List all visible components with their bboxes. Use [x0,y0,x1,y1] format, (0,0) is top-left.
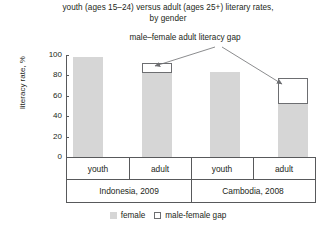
legend-label-female: female [121,211,146,220]
y-tick-label-0: 0 [34,153,62,161]
bar-segment-gap [142,63,172,73]
bar-segment-female [73,57,103,157]
x-group-label-cambodia: Cambodia, 2008 [191,180,315,202]
bar-segment-gap [278,78,308,104]
chart-legend: female male-female gap [0,211,336,220]
y-tick-label-100: 100 [34,51,62,59]
legend-item-gap[interactable]: male-female gap [154,211,226,220]
x-cell-divider [191,157,192,180]
x-label-cambodia-youth: youth [191,157,253,180]
x-cell-divider [253,157,254,180]
x-axis-group-table: youth adult youth adult Indonesia, 2009 … [66,157,316,203]
chart-title-line-1: youth (ages 15–24) versus adult (ages 25… [18,3,318,14]
bar-cambodia-youth[interactable] [210,72,240,157]
bar-segment-female [278,104,308,157]
bar-segment-female [210,72,240,157]
x-label-indonesia-adult: adult [129,157,191,180]
bar-segment-female [142,73,172,157]
x-axis-category-row: youth adult youth adult [67,157,315,180]
legend-swatch-gap-icon [154,212,161,219]
chart-title-line-2: by gender [18,14,318,25]
y-axis-tick-labels: 100 80 60 40 20 0 [34,48,62,166]
chart-title: youth (ages 15–24) versus adult (ages 25… [18,3,318,24]
bar-indonesia-adult[interactable] [142,63,172,157]
bar-cambodia-adult[interactable] [278,78,308,157]
plot-area [66,55,316,157]
legend-swatch-female-icon [110,212,117,219]
y-tick-label-60: 60 [34,92,62,100]
y-tick-label-80: 80 [34,71,62,79]
legend-item-female[interactable]: female [110,211,146,220]
x-label-cambodia-adult: adult [253,157,315,180]
y-axis-title: literacy rate, % [18,38,27,128]
chart-container: youth (ages 15–24) versus adult (ages 25… [0,0,336,236]
x-cell-divider [129,157,130,180]
y-tick-label-20: 20 [34,133,62,141]
y-tick-label-40: 40 [34,112,62,120]
x-group-label-indonesia: Indonesia, 2009 [67,180,191,202]
x-axis-group-row: Indonesia, 2009 Cambodia, 2008 [67,180,315,202]
gap-annotation-label: male–female adult literacy gap [100,33,270,43]
x-group-divider [191,180,192,202]
x-label-indonesia-youth: youth [67,157,129,180]
bar-indonesia-youth[interactable] [73,57,103,157]
legend-label-gap: male-female gap [165,211,226,220]
